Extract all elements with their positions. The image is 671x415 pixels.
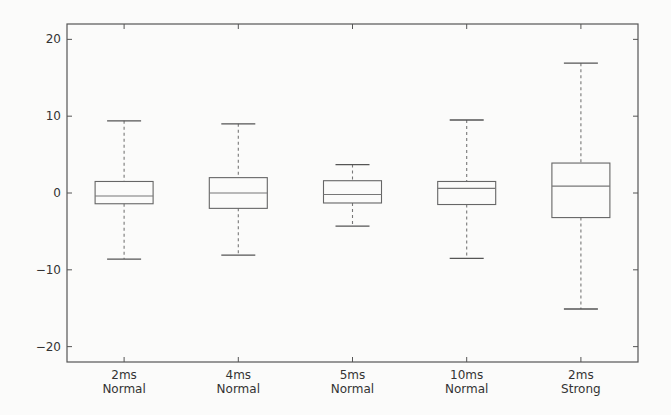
y-tick-label: −10 [36,263,61,277]
y-tick-label: −20 [36,340,61,354]
x-tick-label: Normal [445,382,488,396]
box-4ms-normal [209,124,267,255]
x-tick-label: Normal [217,382,260,396]
y-tick-label: 10 [46,109,61,123]
iqr-box [438,181,496,204]
box-plot-chart: 20100−10−20 2msNormal4msNormal5msNormal1… [0,0,671,415]
iqr-box [324,181,382,203]
x-tick-label: Normal [331,382,374,396]
x-tick-label: 2ms [111,368,137,382]
x-tick-label: 2ms [568,368,594,382]
y-tick-label: 0 [53,186,61,200]
box-2ms-normal [95,121,153,259]
box-plot-series [95,63,610,309]
x-tick-label: 4ms [226,368,252,382]
x-tick-label: 10ms [450,368,483,382]
iqr-box [95,181,153,203]
x-tick-label: Strong [561,382,601,396]
box-5ms-normal [324,165,382,226]
box-10ms-normal [438,120,496,258]
x-tick-label: Normal [102,382,145,396]
box-2ms-strong [552,63,610,309]
iqr-box [552,163,610,218]
x-axis: 2msNormal4msNormal5msNormal10msNormal2ms… [102,24,600,396]
y-tick-label: 20 [46,32,61,46]
y-axis: 20100−10−20 [36,32,638,353]
x-tick-label: 5ms [340,368,366,382]
